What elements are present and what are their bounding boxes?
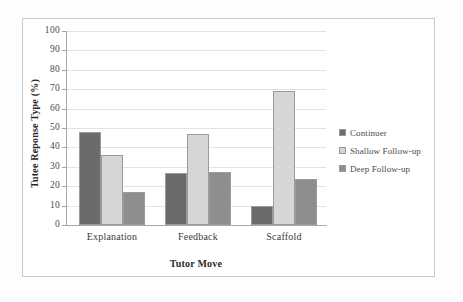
ytick-mark-30: [62, 167, 66, 168]
legend-swatch-icon-shallow-follow-up: [339, 147, 346, 154]
ytick-label-50: 50: [20, 122, 60, 132]
ytick-label-80: 80: [20, 64, 60, 74]
legend-label-deep-follow-up: Deep Follow-up: [350, 164, 410, 174]
bar-feedback-continuer[interactable]: [165, 173, 187, 225]
ytick-mark-70: [62, 89, 66, 90]
bar-explanation-shallow-follow-up[interactable]: [101, 155, 123, 225]
ytick-label-0: 0: [20, 219, 60, 229]
legend-item-continuer[interactable]: Continuer: [339, 127, 435, 138]
ytick-mark-50: [62, 128, 66, 129]
ytick-mark-80: [62, 70, 66, 71]
ytick-label-20: 20: [20, 180, 60, 190]
y-axis-title: Tutee Reponse Type (%): [29, 54, 40, 214]
bar-feedback-deep-follow-up[interactable]: [209, 172, 231, 225]
ytick-label-40: 40: [20, 141, 60, 151]
x-axis-line: [66, 225, 327, 226]
bar-feedback-shallow-follow-up[interactable]: [187, 134, 209, 225]
legend-item-deep-follow-up[interactable]: Deep Follow-up: [339, 163, 435, 174]
ytick-label-100: 100: [20, 25, 60, 35]
legend-swatch-icon-deep-follow-up: [339, 165, 346, 172]
plot-area: Explanation Feedback Scaffold: [66, 31, 326, 225]
bar-explanation-continuer[interactable]: [79, 132, 101, 225]
legend-label-shallow-follow-up: Shallow Follow-up: [350, 146, 421, 156]
x-axis-title: Tutor Move: [66, 258, 326, 269]
bar-scaffold-continuer[interactable]: [251, 206, 273, 225]
ytick-mark-40: [62, 147, 66, 148]
bar-group-explanation: Explanation: [72, 31, 152, 225]
ytick-mark-20: [62, 186, 66, 187]
legend: Continuer Shallow Follow-up Deep Follow-…: [339, 127, 435, 181]
xtick-label-feedback: Feedback: [158, 231, 238, 242]
bars-feedback: [158, 31, 238, 225]
ytick-label-30: 30: [20, 161, 60, 171]
figure-canvas: Explanation Feedback Scaffold: [0, 0, 463, 302]
ytick-mark-0: [62, 225, 66, 226]
xtick-label-scaffold: Scaffold: [244, 231, 324, 242]
xtick-label-explanation: Explanation: [72, 231, 152, 242]
ytick-label-70: 70: [20, 83, 60, 93]
ytick-label-90: 90: [20, 44, 60, 54]
ytick-mark-10: [62, 206, 66, 207]
ytick-mark-90: [62, 50, 66, 51]
bars-explanation: [72, 31, 152, 225]
bar-scaffold-deep-follow-up[interactable]: [295, 179, 317, 225]
bar-explanation-deep-follow-up[interactable]: [123, 192, 145, 225]
ytick-mark-60: [62, 109, 66, 110]
bar-group-scaffold: Scaffold: [244, 31, 324, 225]
legend-swatch-icon-continuer: [339, 129, 346, 136]
bars-scaffold: [244, 31, 324, 225]
ytick-mark-100: [62, 31, 66, 32]
legend-label-continuer: Continuer: [350, 128, 387, 138]
bar-scaffold-shallow-follow-up[interactable]: [273, 91, 295, 225]
ytick-label-60: 60: [20, 103, 60, 113]
y-axis-line: [66, 31, 67, 226]
ytick-label-10: 10: [20, 200, 60, 210]
bar-group-feedback: Feedback: [158, 31, 238, 225]
legend-item-shallow-follow-up[interactable]: Shallow Follow-up: [339, 145, 435, 156]
